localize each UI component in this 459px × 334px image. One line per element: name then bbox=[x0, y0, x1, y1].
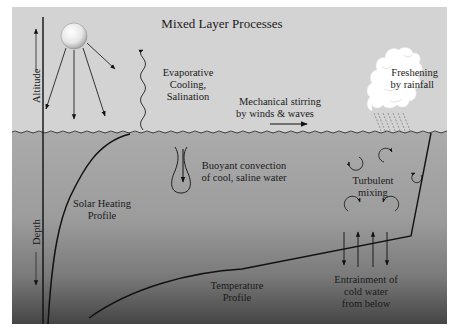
svg-text:by winds & waves: by winds & waves bbox=[236, 108, 314, 119]
svg-text:Mechanical stirring: Mechanical stirring bbox=[239, 96, 322, 107]
mechanical-stirring-label: Mechanical stirring by winds & waves bbox=[236, 96, 322, 119]
svg-text:Solar Heating: Solar Heating bbox=[73, 198, 132, 209]
svg-text:Profile: Profile bbox=[223, 292, 252, 303]
diagram-title: Mixed Layer Processes bbox=[161, 16, 282, 31]
svg-text:Salination: Salination bbox=[167, 91, 210, 102]
sun-icon bbox=[61, 23, 87, 49]
svg-text:Buoyant convection: Buoyant convection bbox=[202, 160, 287, 171]
svg-text:cold water: cold water bbox=[344, 286, 389, 297]
svg-text:Freshening: Freshening bbox=[391, 67, 438, 78]
svg-text:Cooling,: Cooling, bbox=[170, 79, 206, 90]
buoyant-convection-label: Buoyant convection of cool, saline water bbox=[201, 160, 287, 183]
svg-text:Profile: Profile bbox=[88, 210, 117, 221]
depth-label: Depth bbox=[31, 219, 42, 245]
svg-text:from below: from below bbox=[342, 298, 391, 309]
svg-text:Temperature: Temperature bbox=[211, 280, 264, 291]
svg-text:mixing: mixing bbox=[358, 187, 389, 198]
turbulent-mixing-label: Turbulent mixing bbox=[352, 175, 393, 198]
mixed-layer-diagram: Mixed Layer Processes Altitude Depth Eva… bbox=[12, 7, 447, 324]
altitude-label: Altitude bbox=[31, 68, 42, 103]
svg-text:of cool, saline water: of cool, saline water bbox=[201, 172, 287, 183]
svg-text:Turbulent: Turbulent bbox=[352, 175, 393, 186]
freshening-label: Freshening by rainfall bbox=[391, 67, 439, 90]
svg-text:Entrainment of: Entrainment of bbox=[334, 274, 398, 285]
evaporative-cooling-label: Evaporative Cooling, Salination bbox=[163, 67, 214, 102]
svg-text:Evaporative: Evaporative bbox=[163, 67, 214, 78]
svg-text:by rainfall: by rainfall bbox=[391, 79, 435, 90]
